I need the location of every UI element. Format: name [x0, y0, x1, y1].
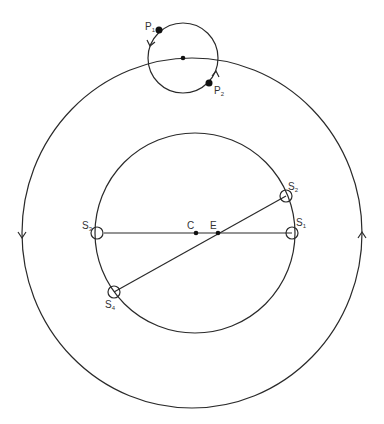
label-e: E — [210, 220, 217, 231]
label-p1: P1 — [145, 21, 156, 33]
label-s3: S3 — [82, 220, 93, 232]
station-s3 — [91, 227, 103, 239]
line-s4-s2 — [114, 196, 286, 292]
point-p2 — [206, 80, 213, 87]
label-c: C — [187, 220, 194, 231]
orbit-diagram: P1 P2 S1 S2 S3 S4 C E — [0, 0, 384, 424]
label-s4: S4 — [105, 299, 116, 311]
label-s1: S1 — [296, 217, 307, 229]
label-p2: P2 — [214, 85, 225, 97]
point-p1 — [156, 27, 163, 34]
point-c — [194, 231, 199, 236]
point-e — [216, 231, 221, 236]
label-s2: S2 — [288, 181, 299, 193]
epicycle-center-dot — [181, 56, 186, 61]
